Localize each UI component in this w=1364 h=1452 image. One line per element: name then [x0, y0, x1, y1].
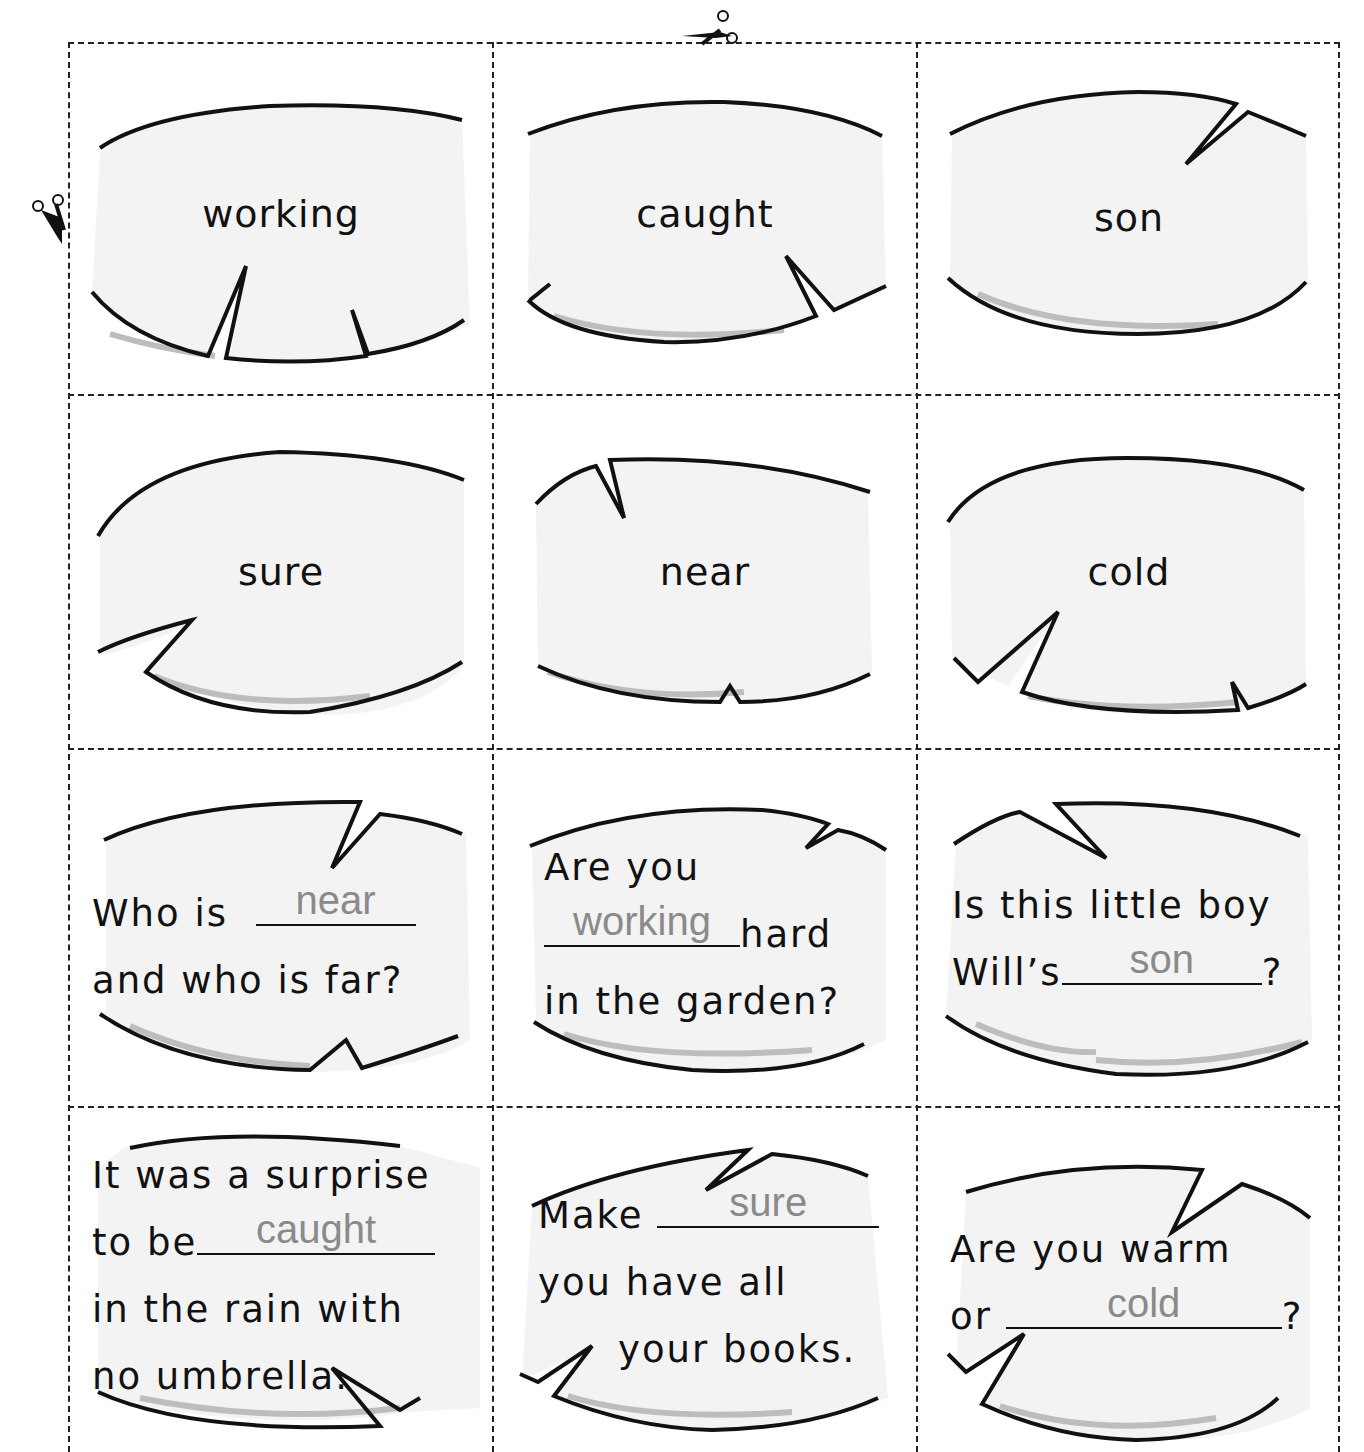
- sentence-card[interactable]: Who is near and who is far?: [70, 750, 490, 1106]
- sentence-card[interactable]: Is this little boy Will’sson?: [916, 750, 1338, 1106]
- word-card[interactable]: cold: [918, 396, 1340, 748]
- card-word: near: [494, 550, 916, 594]
- filled-answer: son: [1062, 939, 1262, 979]
- sentence-text: Is this little boy Will’sson?: [952, 872, 1283, 1006]
- filled-answer: cold: [1006, 1283, 1282, 1323]
- sentence-card[interactable]: Make sure you have all your books.: [492, 1108, 914, 1445]
- word-card[interactable]: caught: [494, 44, 916, 394]
- word-card[interactable]: son: [918, 44, 1340, 394]
- sentence-card[interactable]: Are you workinghard in the garden?: [492, 750, 914, 1106]
- answer-blank[interactable]: sure: [657, 1192, 879, 1228]
- sentence-text: Who is near and who is far?: [92, 880, 416, 1014]
- scissors-icon: [28, 188, 72, 248]
- filled-answer: caught: [197, 1209, 435, 1249]
- filled-answer: near: [256, 880, 416, 920]
- card-word: caught: [494, 192, 916, 236]
- filled-answer: sure: [657, 1182, 879, 1222]
- sentence-card[interactable]: It was a surprise to becaught in the rai…: [70, 1108, 490, 1445]
- card-word: cold: [918, 550, 1340, 594]
- sentence-card[interactable]: Are you warm or cold?: [916, 1108, 1338, 1445]
- sentence-text: Are you workinghard in the garden?: [544, 834, 840, 1035]
- word-card[interactable]: working: [70, 44, 492, 394]
- filled-answer: working: [544, 901, 740, 941]
- sentence-text: Are you warm or cold?: [950, 1216, 1303, 1350]
- answer-blank[interactable]: caught: [197, 1219, 435, 1255]
- scissors-icon: [680, 6, 740, 46]
- word-card[interactable]: near: [494, 396, 916, 748]
- answer-blank[interactable]: son: [1062, 949, 1262, 985]
- answer-blank[interactable]: working: [544, 911, 740, 947]
- card-word: son: [918, 196, 1340, 240]
- sentence-text: Make sure you have all your books.: [538, 1182, 879, 1383]
- answer-blank[interactable]: near: [256, 890, 416, 926]
- sentence-text: It was a surprise to becaught in the rai…: [92, 1142, 435, 1410]
- answer-blank[interactable]: cold: [1006, 1293, 1282, 1329]
- card-word: sure: [70, 550, 492, 594]
- card-word: working: [70, 192, 492, 236]
- word-card[interactable]: sure: [70, 396, 492, 748]
